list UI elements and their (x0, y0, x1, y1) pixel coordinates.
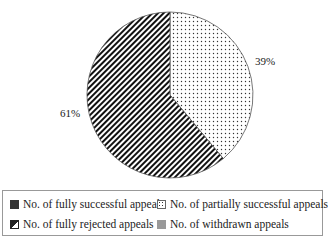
label-61: 61% (60, 107, 80, 119)
legend-item-fully-successful: No. of fully successful appeals (10, 198, 164, 210)
solid-swatch-icon (10, 200, 19, 209)
legend-item-partially-successful: No. of partially successful appeals (157, 198, 328, 210)
legend-item-fully-rejected: No. of fully rejected appeals (10, 218, 154, 230)
dots-swatch-icon (157, 200, 166, 209)
legend: No. of fully successful appeals No. of p… (2, 190, 323, 236)
stripes-swatch-icon (10, 220, 19, 229)
gray-swatch-icon (157, 220, 166, 229)
pie-chart (0, 0, 327, 190)
legend-item-withdrawn: No. of withdrawn appeals (157, 218, 289, 230)
label-39: 39% (255, 55, 275, 67)
